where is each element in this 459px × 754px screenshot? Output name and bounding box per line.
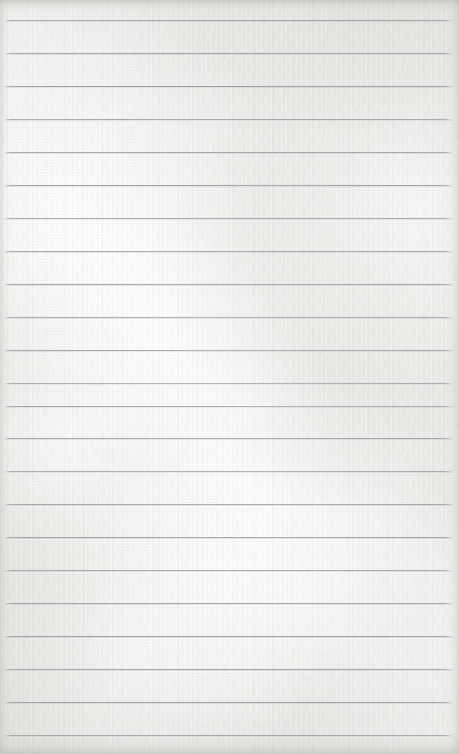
page-bottom-edge-shadow (0, 734, 459, 754)
writing-area (5, 20, 452, 735)
page-top-edge-shadow (0, 0, 459, 14)
scanned-page (0, 0, 459, 754)
rule-line (5, 735, 452, 736)
